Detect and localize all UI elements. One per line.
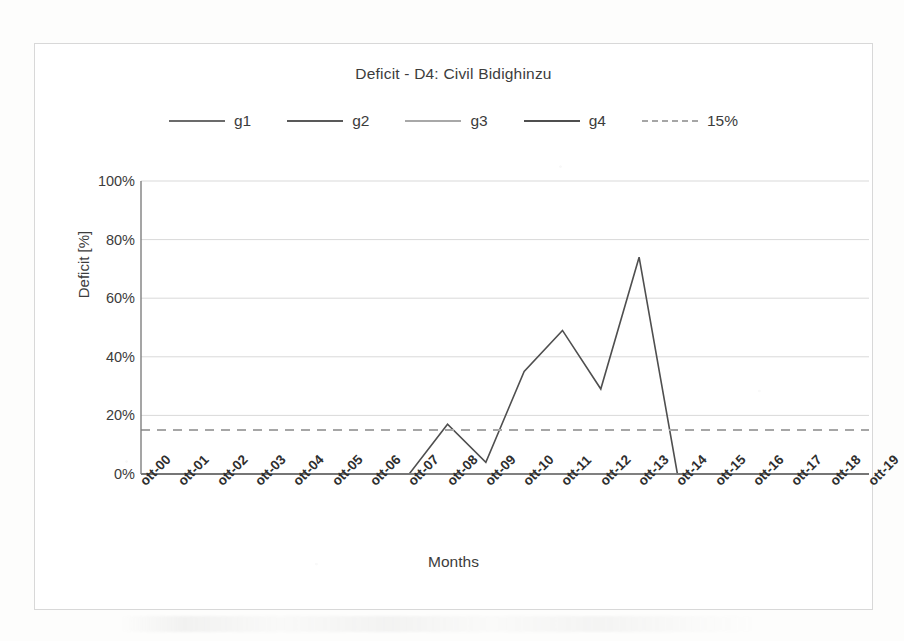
legend-label: g1 [234, 112, 251, 130]
y-axis-tick-labels: 0%20%40%60%80%100% [91, 181, 135, 474]
legend-label: g2 [352, 112, 369, 130]
legend-item-15pct[interactable]: 15% [642, 112, 738, 130]
legend-item-g3[interactable]: g3 [405, 112, 487, 130]
legend-swatch-15pct [642, 120, 698, 122]
legend-swatch-g1 [169, 120, 225, 122]
chart-title: Deficit - D4: Civil Bidighinzu [35, 65, 872, 83]
y-tick-label: 100% [98, 173, 135, 189]
y-tick-label: 80% [106, 232, 135, 248]
y-tick-label: 20% [106, 407, 135, 423]
legend-item-g4[interactable]: g4 [524, 112, 606, 130]
legend-label: g4 [589, 112, 606, 130]
y-tick-label: 60% [106, 290, 135, 306]
legend-item-g1[interactable]: g1 [169, 112, 251, 130]
x-axis-title: Months [35, 553, 872, 571]
chart-frame: Deficit - D4: Civil Bidighinzu g1g2g3g41… [34, 43, 873, 610]
y-tick-label: 40% [106, 349, 135, 365]
legend-label: 15% [707, 112, 738, 130]
legend-item-g2[interactable]: g2 [287, 112, 369, 130]
legend-swatch-g4 [524, 120, 580, 122]
legend-label: g3 [470, 112, 487, 130]
y-tick-label: 0% [114, 466, 135, 482]
chart-legend: g1g2g3g415% [35, 110, 872, 132]
y-axis-title: Deficit [%] [75, 195, 92, 335]
series-line-g4 [141, 257, 869, 474]
x-axis-tick-labels: ott-00ott-01ott-02ott-03ott-04ott-05ott-… [141, 476, 869, 556]
legend-swatch-g2 [287, 120, 343, 122]
legend-swatch-g3 [405, 120, 461, 122]
plot-area [141, 181, 869, 474]
plot-svg [141, 181, 869, 474]
